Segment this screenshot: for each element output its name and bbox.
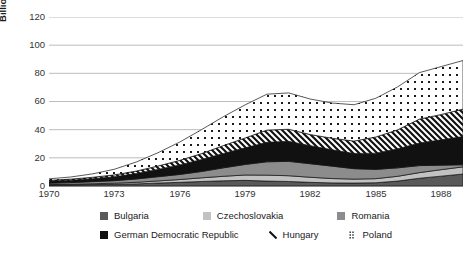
x-tick-1979: 1979 [234, 188, 255, 199]
legend-item-german-democratic-republic[interactable]: German Democratic Republic [100, 230, 239, 240]
legend-item-czechoslovakia[interactable]: Czechoslovakia [203, 211, 284, 221]
y-tick-120: 120 [0, 12, 45, 22]
x-tick-1988: 1988 [430, 188, 451, 199]
legend-item-bulgaria[interactable]: Bulgaria [100, 211, 149, 221]
legend-swatch-czechoslovakia [203, 212, 211, 220]
x-tick-1976: 1976 [169, 188, 190, 199]
legend-row-2: German Democratic Republic Hungary [0, 225, 472, 244]
legend-item-hungary[interactable]: Hungary [269, 230, 319, 240]
y-tick-100: 100 [0, 40, 45, 50]
x-tick-1973: 1973 [103, 188, 124, 199]
legend-label-bulgaria: Bulgaria [114, 211, 149, 221]
legend-swatch-romania [337, 212, 345, 220]
legend-swatch-poland [349, 231, 357, 239]
plot-area [49, 17, 463, 186]
x-tick-1982: 1982 [299, 188, 320, 199]
legend-label-german-democratic-republic: German Democratic Republic [114, 230, 239, 240]
y-tick-40: 40 [0, 125, 45, 135]
x-tick-1970: 1970 [38, 188, 59, 199]
legend-item-poland[interactable]: Poland [349, 230, 393, 240]
legend-row-1: Bulgaria Czechoslovakia Romania [0, 206, 472, 225]
legend-swatch-bulgaria [100, 212, 108, 220]
y-tick-80: 80 [0, 68, 45, 78]
diagonal-hatch-icon [269, 231, 277, 239]
x-tick-1985: 1985 [365, 188, 386, 199]
chart-container: Billions of $ 0 20 40 60 80 100 120 1970… [0, 0, 472, 266]
legend-label-romania: Romania [351, 211, 389, 221]
legend-label-czechoslovakia: Czechoslovakia [217, 211, 284, 221]
series-layers [49, 61, 463, 186]
legend-label-hungary: Hungary [283, 230, 319, 240]
y-tick-60: 60 [0, 96, 45, 106]
y-tick-20: 20 [0, 153, 45, 163]
legend-item-romania[interactable]: Romania [337, 211, 389, 221]
chart-legend: Bulgaria Czechoslovakia Romania German D… [0, 206, 472, 244]
legend-swatch-hungary [269, 231, 277, 239]
legend-label-poland: Poland [363, 230, 393, 240]
dotted-pattern-icon [349, 231, 357, 239]
stacked-area-svg [49, 17, 463, 186]
legend-swatch-german-democratic-republic [100, 231, 108, 239]
x-axis-line [49, 186, 463, 187]
